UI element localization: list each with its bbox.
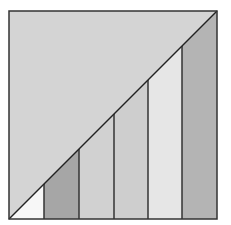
diagram-canvas bbox=[0, 0, 231, 225]
strip-6 bbox=[182, 11, 217, 219]
